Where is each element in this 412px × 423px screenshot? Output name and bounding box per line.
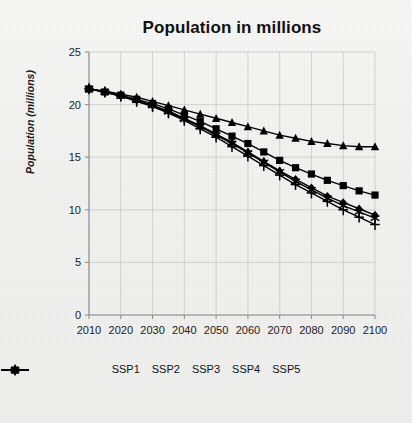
data-point-marker	[308, 170, 315, 177]
series-ssp4	[84, 83, 380, 230]
legend-item-ssp1[interactable]: SSP1	[112, 363, 140, 375]
legend-label: SSP3	[192, 363, 220, 375]
legend-label: SSP4	[232, 363, 260, 375]
legend-label: SSP2	[152, 363, 180, 375]
y-tick-label: 5	[75, 256, 81, 268]
x-tick-label: 2070	[267, 324, 291, 336]
x-tick-label: 2050	[204, 324, 228, 336]
x-tick-label: 2030	[140, 324, 164, 336]
x-tick-label: 2010	[77, 324, 101, 336]
chart-legend: SSP1SSP2SSP3SSP4SSP5	[0, 363, 412, 375]
data-point-marker	[340, 182, 347, 189]
legend-label: SSP5	[272, 363, 300, 375]
y-tick-label: 25	[69, 46, 81, 58]
series-line	[89, 89, 375, 218]
x-tick-label: 2100	[363, 324, 387, 336]
x-tick-label: 2090	[331, 324, 355, 336]
y-tick-label: 10	[69, 204, 81, 216]
series-line	[89, 89, 375, 225]
legend-label: SSP1	[112, 363, 140, 375]
legend-item-ssp3[interactable]: SSP3	[192, 363, 220, 375]
population-line-chart: Population in millions Population (milli…	[0, 0, 412, 423]
y-tick-label: 0	[75, 309, 81, 321]
data-point-marker	[244, 140, 251, 147]
x-tick-label: 2020	[109, 324, 133, 336]
plot-area: 0510152025201020202030204020502060207020…	[0, 0, 412, 360]
legend-item-ssp5[interactable]: SSP5	[272, 363, 300, 375]
data-point-marker	[371, 191, 378, 198]
data-point-marker	[324, 177, 331, 184]
data-point-marker	[356, 187, 363, 194]
y-tick-label: 20	[69, 99, 81, 111]
x-tick-label: 2040	[172, 324, 196, 336]
legend-item-ssp4[interactable]: SSP4	[232, 363, 260, 375]
asterisk-marker-icon	[0, 363, 30, 377]
legend-item-ssp2[interactable]: SSP2	[152, 363, 180, 375]
x-tick-label: 2080	[299, 324, 323, 336]
data-point-marker	[276, 157, 283, 164]
x-tick-label: 2060	[236, 324, 260, 336]
data-point-marker	[292, 164, 299, 171]
y-tick-label: 15	[69, 151, 81, 163]
data-point-marker	[260, 148, 267, 155]
